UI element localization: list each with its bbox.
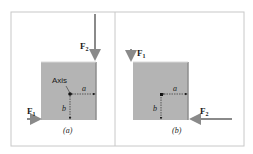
force-f2-label: F2 (200, 106, 209, 117)
dimension-b-label: b (153, 104, 157, 113)
dimension-b-label: b (62, 104, 66, 113)
force-f1-label: F1 (27, 106, 36, 117)
panel-a: Axis a b F1 F2 (a) (27, 14, 96, 135)
panel-b-caption: (b) (172, 126, 182, 135)
axis-label: Axis (52, 76, 67, 85)
panel-b: a b F1 F2 (b) (131, 48, 232, 135)
force-f1-label: F1 (137, 48, 146, 59)
force-f2-label: F2 (80, 41, 89, 52)
torque-diagram: Axis a b F1 F2 (a) a b F1 F2 (b) (0, 0, 253, 154)
axis-point (160, 93, 163, 96)
block-a (41, 62, 96, 120)
dimension-a-label: a (173, 84, 177, 93)
block-b (133, 62, 188, 120)
panel-a-caption: (a) (63, 126, 73, 135)
dimension-a-label: a (82, 84, 86, 93)
